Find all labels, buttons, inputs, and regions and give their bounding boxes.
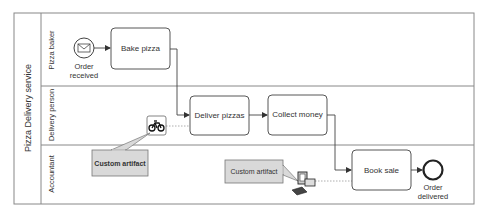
pool-label: Pizza Delivery service xyxy=(23,64,33,152)
task-label: Collect money xyxy=(272,110,323,119)
task-collect-money[interactable]: Collect money xyxy=(268,95,327,135)
task-book-sale[interactable]: Book sale xyxy=(352,150,411,190)
start-event-label: received xyxy=(70,71,98,80)
lane-label: Pizza baker xyxy=(47,30,56,70)
bpmn-diagram: Pizza Delivery service Pizza baker Deliv… xyxy=(0,0,487,212)
task-deliver-pizzas[interactable]: Deliver pizzas xyxy=(190,96,249,135)
artifact-label: Custom artifact xyxy=(94,160,146,167)
task-label: Book sale xyxy=(364,166,400,175)
lane-delivery-person[interactable]: Delivery person xyxy=(47,89,56,141)
envelope-icon xyxy=(78,44,90,52)
end-event-label: delivered xyxy=(418,192,448,201)
task-bake-pizza[interactable]: Bake pizza xyxy=(111,28,170,69)
task-label: Deliver pizzas xyxy=(195,111,245,120)
end-event-label: Order xyxy=(423,183,443,192)
artifact-label: Custom artifact xyxy=(230,168,277,175)
lane-label: Delivery person xyxy=(47,89,56,141)
start-event-label: Order xyxy=(74,62,94,71)
task-label: Bake pizza xyxy=(121,44,161,53)
custom-artifact-bicycle[interactable] xyxy=(147,116,166,135)
lane-pizza-baker[interactable]: Pizza baker xyxy=(47,30,56,70)
lane-label: Accountant xyxy=(47,154,56,192)
lane-accountant[interactable]: Accountant xyxy=(47,154,56,192)
